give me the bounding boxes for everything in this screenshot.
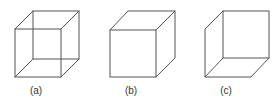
cube-a-label: (a): [30, 85, 42, 96]
cube-c-left-face: [205, 11, 223, 77]
cube-a-edge-br: [61, 59, 79, 77]
cube-a-wireframe: [15, 11, 79, 77]
cube-b-front-face: [110, 30, 156, 77]
cube-a-edge-bl: [15, 59, 33, 77]
cube-b-top-face: [110, 11, 175, 30]
cube-a-edge-tl: [15, 11, 33, 29]
cube-a-edge-tr: [61, 11, 79, 29]
cube-b-solid: [110, 11, 175, 77]
cube-c-label: (c): [220, 85, 232, 96]
cube-b-label: (b): [125, 85, 137, 96]
cube-c-back-face: [223, 11, 269, 58]
cube-c-solid: [205, 11, 269, 77]
necker-cube-figure: (a) (b) (c): [0, 0, 280, 100]
